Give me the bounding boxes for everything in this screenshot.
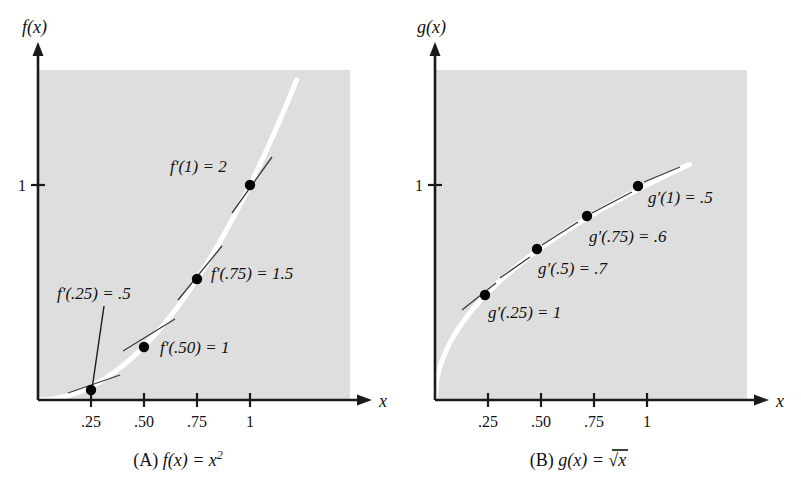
data-point-b-50 [532, 244, 542, 254]
y-tick-label-1-a: 1 [18, 177, 26, 194]
y-tick-label-1-b: 1 [415, 177, 423, 194]
figure-container: 1 .25 .50 .75 1 f(x) x f′(.25) = .5 f′(.… [0, 0, 801, 495]
panel-a-svg: 1 .25 .50 .75 1 f(x) x f′(.25) = .5 f′(.… [0, 0, 400, 495]
caption-panel-b: (B) g(x) = √x [530, 450, 627, 471]
annotation-gprime-75: g′(.75) = .6 [589, 227, 667, 246]
x-axis-label-b: x [775, 391, 784, 411]
x-axis-arrowhead-b [754, 395, 769, 406]
x-tick-label-50-b: .50 [531, 413, 551, 430]
annotation-gprime-50: g′(.5) = .7 [538, 259, 609, 278]
x-tick-label-25-b: .25 [478, 413, 498, 430]
panel-b-g-of-sqrt-x: 1 .25 .50 .75 1 g(x) x g′(.25) = 1 g′(.5… [400, 0, 800, 495]
annotation-gprime-25: g′(.25) = 1 [488, 303, 561, 322]
annotation-fprime-1: f′(1) = 2 [170, 157, 227, 176]
x-tick-label-1-b: 1 [643, 413, 651, 430]
x-axis-arrowhead-a [357, 395, 372, 406]
x-tick-label-75-b: .75 [584, 413, 604, 430]
annotation-gprime-1: g′(1) = .5 [648, 188, 713, 207]
x-tick-label-25-a: .25 [81, 413, 101, 430]
x-tick-label-50-a: .50 [134, 413, 154, 430]
y-axis-label-a: f(x) [22, 17, 47, 38]
annotation-fprime-75: f′(.75) = 1.5 [211, 264, 293, 283]
data-point-a-1 [245, 180, 255, 190]
x-axis-label-a: x [378, 391, 387, 411]
data-point-a-75 [192, 274, 202, 284]
annotation-fprime-25: f′(.25) = .5 [57, 284, 131, 303]
panel-a-f-of-x-squared: 1 .25 .50 .75 1 f(x) x f′(.25) = .5 f′(.… [0, 0, 400, 495]
panel-b-svg: 1 .25 .50 .75 1 g(x) x g′(.25) = 1 g′(.5… [400, 0, 801, 495]
data-point-b-75 [582, 211, 592, 221]
y-axis-arrowhead-a [33, 42, 44, 56]
data-point-a-50 [139, 342, 149, 352]
data-point-b-25 [480, 290, 490, 300]
annotation-fprime-50: f′(.50) = 1 [160, 338, 230, 357]
y-axis-arrowhead-b [430, 42, 441, 56]
data-point-a-25 [86, 385, 96, 395]
x-tick-label-75-a: .75 [187, 413, 207, 430]
data-point-b-1 [633, 181, 643, 191]
x-tick-label-1-a: 1 [246, 413, 254, 430]
caption-panel-a: (A) f(x) = x2 [133, 448, 223, 471]
y-axis-label-b: g(x) [417, 17, 446, 38]
